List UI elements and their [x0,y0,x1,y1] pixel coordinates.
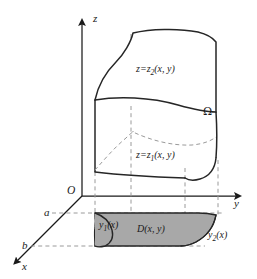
a-mark-label: a [44,206,50,218]
lower-surface-lhs: z=z [135,149,151,160]
y-axis-label: y [233,197,239,209]
y2-args: (x) [216,229,228,241]
upper-surface-args: (x, y) [154,63,175,75]
solid-region-diagram: z y x O a b z=z2(x, y) z=z1(x, y) Ω y1(x… [0,0,257,279]
region-D-label: D(x, y) [136,223,165,235]
upper-surface-lhs: z=z [135,63,151,74]
solid-right-wall-upper [216,112,217,158]
lower-surface-args: (x, y) [154,149,175,161]
z-axis-label: z [92,12,98,24]
figure-container: z y x O a b z=z2(x, y) z=z1(x, y) Ω y1(x… [0,0,257,279]
solid-right-silhouette [185,158,216,180]
x-axis-label: x [21,260,27,272]
solid-bottom-rim [95,172,185,178]
lower-surface-label: z=z1(x, y) [135,149,175,163]
omega-label: Ω [203,105,212,118]
boundary-label-y2: y2(x) [207,229,228,243]
b-mark-label: b [22,239,28,251]
origin-label: O [67,184,76,196]
y1-args: (x) [107,219,119,231]
